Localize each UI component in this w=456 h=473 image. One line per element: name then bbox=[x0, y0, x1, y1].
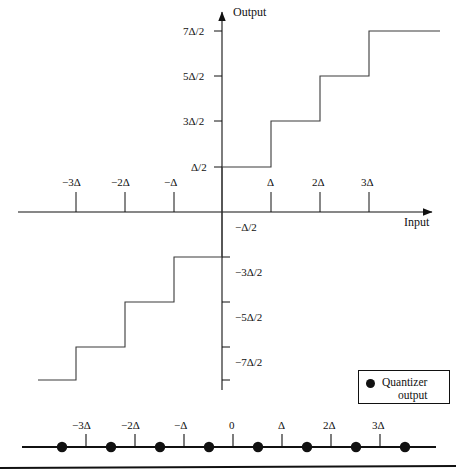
legend-text: Quantizer output bbox=[382, 376, 427, 402]
x-tick-label-neg-2d: −2Δ bbox=[111, 176, 130, 188]
numberline-label-d: Δ bbox=[278, 419, 285, 431]
legend-line-2: output bbox=[382, 389, 427, 402]
x-tick-label-2d: 2Δ bbox=[312, 176, 325, 188]
x-tick-label-d: Δ bbox=[267, 176, 274, 188]
y-tick-label-neg-d2: −Δ/2 bbox=[235, 221, 257, 233]
legend: Quantizer output bbox=[358, 370, 450, 404]
numberline-label-neg-2d: −2Δ bbox=[121, 419, 140, 431]
y-tick-label-neg-3d2: −3Δ/2 bbox=[235, 266, 262, 278]
legend-marker-dot bbox=[366, 379, 375, 388]
y-tick-label-3d2: 3Δ/2 bbox=[183, 115, 204, 127]
numberline-label-zero: 0 bbox=[229, 419, 235, 431]
quantizer-figure: Output Input 7Δ/2 5Δ/2 3Δ/2 Δ/2 −Δ/2 −3Δ… bbox=[0, 0, 456, 473]
x-axis-label: Input bbox=[404, 216, 429, 228]
y-tick-label-d2: Δ/2 bbox=[191, 161, 207, 173]
bottom-rule bbox=[0, 466, 456, 468]
x-tick-label-3d: 3Δ bbox=[361, 176, 374, 188]
x-tick-label-neg-d: −Δ bbox=[164, 176, 177, 188]
y-axis-label: Output bbox=[233, 6, 266, 18]
number-line-ticks bbox=[86, 434, 380, 447]
numberline-label-neg-3d: −3Δ bbox=[72, 419, 91, 431]
numberline-label-neg-d: −Δ bbox=[174, 419, 187, 431]
x-tick-label-neg-3d: −3Δ bbox=[62, 176, 81, 188]
y-tick-label-neg-7d2: −7Δ/2 bbox=[235, 356, 262, 368]
quantizer-staircase bbox=[38, 31, 440, 380]
numberline-label-3d: 3Δ bbox=[372, 419, 385, 431]
legend-line-1: Quantizer bbox=[382, 376, 427, 388]
y-tick-label-neg-5d2: −5Δ/2 bbox=[235, 311, 262, 323]
numberline-label-2d: 2Δ bbox=[323, 419, 336, 431]
y-tick-label-5d2: 5Δ/2 bbox=[183, 70, 204, 82]
y-tick-label-7d2: 7Δ/2 bbox=[183, 25, 204, 37]
